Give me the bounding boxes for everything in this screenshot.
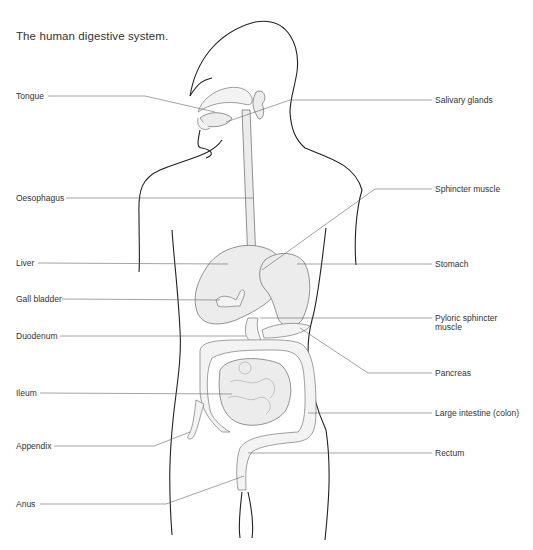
label-pancreas: Pancreas: [435, 368, 471, 378]
anal-canal: [248, 492, 253, 538]
label-salivary-glands: Salivary glands: [435, 95, 493, 105]
leader-tongue: [48, 96, 215, 112]
label-anus: Anus: [16, 499, 35, 509]
label-rectum: Rectum: [435, 448, 464, 458]
palate: [198, 87, 252, 112]
label-duodenum: Duodenum: [16, 331, 58, 341]
label-appendix: Appendix: [16, 441, 51, 451]
label-gall-bladder: Gall bladder: [16, 294, 62, 304]
label-oesophagus: Oesophagus: [16, 193, 64, 203]
pancreas-shape: [262, 323, 310, 338]
right-shoulder-outline: [355, 190, 362, 265]
duodenum-shape: [245, 318, 262, 342]
ileum-shape: [219, 359, 291, 426]
head-outline: [190, 21, 362, 190]
leader-appendix: [54, 432, 190, 446]
leader-pancreas: [300, 328, 432, 373]
leader-anus: [40, 476, 244, 504]
anal-canal: [239, 492, 242, 538]
stomach-shape: [260, 253, 310, 326]
left-torso-outline: [170, 230, 181, 535]
label-ileum: Ileum: [16, 388, 37, 398]
salivary-gland-shape: [253, 91, 265, 119]
left-shoulder-outline: [139, 140, 222, 272]
leader-liver: [38, 263, 228, 264]
digestive-system-illustration: [0, 0, 533, 550]
label-large-intestine: Large intestine (colon): [435, 408, 519, 418]
label-tongue: Tongue: [16, 91, 44, 101]
label-liver: Liver: [16, 258, 34, 268]
oesophagus-shape: [242, 110, 256, 262]
label-stomach: Stomach: [435, 259, 469, 269]
label-pyloric-sphincter-line2: muscle: [435, 322, 462, 332]
appendix-shape: [188, 400, 204, 439]
label-sphincter-muscle: Sphincter muscle: [435, 184, 500, 194]
